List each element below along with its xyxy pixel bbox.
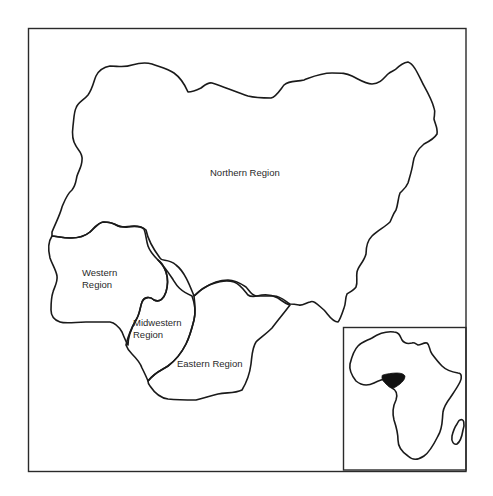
inset-frame bbox=[344, 328, 467, 471]
africa-outline-icon bbox=[350, 332, 462, 459]
midwestern-region-label-line2: Region bbox=[133, 329, 182, 341]
nigeria-regions-map bbox=[0, 0, 493, 496]
eastern-region-label: Eastern Region bbox=[177, 358, 242, 370]
midwestern-region-label-line1: Midwestern bbox=[133, 317, 182, 329]
western-region-label-line1: Western bbox=[82, 267, 117, 279]
western-region-label-line2: Region bbox=[82, 279, 117, 291]
northern-region-label: Northern Region bbox=[210, 167, 280, 179]
western-region-label: Western Region bbox=[82, 267, 117, 291]
midwestern-region-label: Midwestern Region bbox=[133, 317, 182, 341]
nigeria-highlight-icon bbox=[382, 373, 405, 388]
madagascar-outline-icon bbox=[452, 420, 464, 445]
